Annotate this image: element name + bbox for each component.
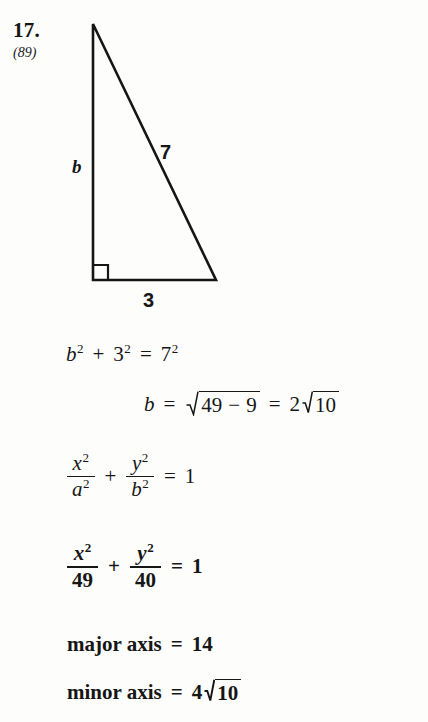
eq3-denominator-2: b2 xyxy=(126,476,154,501)
eq3-fraction-2: y2 b2 xyxy=(126,452,154,500)
triangle-label-leg-3: 3 xyxy=(143,290,154,310)
problem-page-reference: (89) xyxy=(13,45,36,61)
eq1-three: 3 xyxy=(113,342,124,366)
eq4-fraction-2: y2 40 xyxy=(130,542,161,591)
eq3-y: y xyxy=(132,451,141,475)
major-axis-equals: = xyxy=(162,632,192,657)
eq4-denominator-2: 40 xyxy=(130,566,161,592)
equation-solve-b: b = 49−9 = 2 10 xyxy=(144,390,339,418)
eq3-b-exponent: 2 xyxy=(142,476,149,491)
eq2-radical-10: 10 xyxy=(302,390,339,418)
eq1-seven-exponent: 2 xyxy=(172,341,179,356)
result-minor-axis: minor axis = 4 10 xyxy=(67,678,241,706)
eq3-y-exponent: 2 xyxy=(142,450,149,465)
eq4-denominator-1: 49 xyxy=(67,566,98,592)
minor-axis-root-value: 10 xyxy=(215,679,241,706)
eq4-rhs: 1 xyxy=(192,554,203,579)
eq1-equals: = xyxy=(131,342,161,367)
eq2-b: b xyxy=(144,392,155,417)
eq3-x: x xyxy=(73,451,82,475)
triangle-svg xyxy=(55,12,255,322)
eq3-numerator-2: y2 xyxy=(127,452,153,476)
triangle-label-leg-b: b xyxy=(72,157,82,176)
eq4-equals: = xyxy=(162,554,192,579)
eq3-plus: + xyxy=(96,464,126,489)
eq3-equals: = xyxy=(155,464,185,489)
eq4-y-exponent: 2 xyxy=(147,540,154,555)
eq3-x-exponent: 2 xyxy=(82,450,89,465)
eq2-radicand: 49−9 xyxy=(199,391,259,418)
eq1-plus: + xyxy=(84,342,114,367)
eq3-numerator-1: x2 xyxy=(68,452,94,476)
eq2-coefficient: 2 xyxy=(290,392,301,417)
result-major-axis: major axis = 14 xyxy=(67,632,213,657)
eq1-b: b xyxy=(66,342,77,366)
minor-axis-coefficient: 4 xyxy=(192,680,203,705)
eq3-a-exponent: 2 xyxy=(83,476,90,491)
minor-axis-equals: = xyxy=(162,680,192,705)
radical-sign-icon xyxy=(302,390,313,414)
right-triangle-figure: b 7 3 xyxy=(55,12,255,322)
eq2-forty-nine: 49 xyxy=(201,393,222,417)
eq3-fraction-1: x2 a2 xyxy=(67,452,95,500)
eq4-fraction-1: x2 49 xyxy=(67,542,98,591)
eq4-numerator-1: x2 xyxy=(69,542,97,566)
problem-number: 17. xyxy=(13,18,40,43)
radical-sign-icon xyxy=(204,678,215,702)
solution-page: 17. (89) b 7 3 b2 + 32 = 72 b = 49−9 xyxy=(0,0,428,722)
eq3-rhs: 1 xyxy=(185,464,196,489)
major-axis-value: 14 xyxy=(192,632,213,657)
minor-axis-radical: 10 xyxy=(204,678,241,706)
eq3-b: b xyxy=(131,477,142,501)
eq4-x-exponent: 2 xyxy=(85,540,92,555)
equation-pythagorean: b2 + 32 = 72 xyxy=(66,342,178,367)
equation-ellipse-general: x2 a2 + y2 b2 = 1 xyxy=(66,452,195,500)
eq2-equals-1: = xyxy=(155,392,185,417)
eq4-y: y xyxy=(137,541,146,565)
eq2-equals-2: = xyxy=(260,392,290,417)
eq2-radical-49-minus-9: 49−9 xyxy=(186,390,259,418)
equation-ellipse-specific: x2 49 + y2 40 = 1 xyxy=(66,542,202,591)
eq3-denominator-1: a2 xyxy=(67,476,95,501)
triangle-outline xyxy=(93,24,216,280)
eq4-plus: + xyxy=(99,554,129,579)
eq4-numerator-2: y2 xyxy=(132,542,158,566)
minor-axis-label: minor axis xyxy=(67,680,162,705)
eq2-nine: 9 xyxy=(246,393,257,417)
radical-sign-icon xyxy=(186,390,199,416)
eq2-minus: − xyxy=(222,393,246,417)
major-axis-label: major axis xyxy=(67,632,162,657)
triangle-label-hypotenuse: 7 xyxy=(160,142,171,162)
eq1-seven: 7 xyxy=(161,342,172,366)
eq3-a: a xyxy=(72,477,83,501)
eq4-x: x xyxy=(74,541,85,565)
right-angle-marker xyxy=(93,265,108,280)
eq2-root-value: 10 xyxy=(313,391,339,418)
